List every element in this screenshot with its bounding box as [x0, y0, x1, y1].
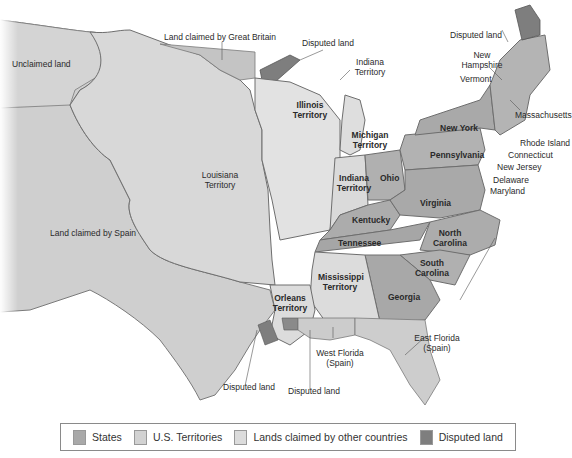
label-indiana-territory: Indiana Territory — [336, 173, 372, 193]
swatch-states-icon — [73, 430, 86, 445]
legend: States U.S. Territories Lands claimed by… — [60, 423, 516, 451]
swatch-disputed-icon — [420, 430, 433, 445]
label-land-claimed-spain: Land claimed by Spain — [50, 228, 136, 238]
swatch-territories-icon — [134, 430, 147, 445]
label-ohio: Ohio — [380, 173, 399, 183]
label-new-hampshire: New Hampshire — [460, 50, 504, 70]
label-disputed-land-ne: Disputed land — [450, 30, 502, 40]
legend-item-disputed: Disputed land — [420, 430, 503, 445]
label-illinois-territory: Illinois Territory — [292, 100, 328, 120]
label-disputed-land-s: Disputed land — [288, 386, 340, 396]
label-delaware: Delaware — [493, 175, 529, 185]
map-area: Unclaimed land Land claimed by Great Bri… — [0, 0, 562, 410]
label-new-jersey: New Jersey — [497, 162, 541, 172]
label-michigan-territory: Michigan Territory — [350, 130, 390, 150]
label-rhode-island: Rhode Island — [520, 138, 570, 148]
swatch-other-countries-icon — [234, 430, 247, 445]
label-kentucky: Kentucky — [352, 215, 390, 225]
label-connecticut: Connecticut — [508, 150, 553, 160]
label-maryland: Maryland — [490, 186, 525, 196]
region-disputed-s — [282, 318, 298, 330]
label-orleans-territory: Orleans Territory — [270, 293, 310, 313]
legend-label: States — [92, 431, 122, 443]
legend-label: Disputed land — [439, 431, 503, 443]
label-disputed-land-north: Disputed land — [302, 38, 354, 48]
legend-item-territories: U.S. Territories — [134, 430, 222, 445]
label-disputed-land-sw: Disputed land — [223, 382, 275, 392]
label-great-britain: Land claimed by Great Britain — [164, 32, 276, 42]
region-disputed-ne — [515, 5, 540, 40]
label-louisiana-territory: Louisiana Territory — [200, 170, 240, 190]
label-west-florida: West Florida (Spain) — [312, 348, 368, 368]
label-mississippi-territory: Mississippi Territory — [318, 272, 362, 292]
region-pennsylvania — [400, 128, 485, 170]
label-pennsylvania: Pennsylvania — [430, 150, 484, 160]
label-tennessee: Tennessee — [338, 238, 381, 248]
region-disputed-north — [260, 55, 300, 82]
label-massachusetts: Massachusetts — [515, 110, 572, 120]
region-virginia — [390, 165, 485, 218]
legend-item-other-countries: Lands claimed by other countries — [234, 430, 407, 445]
label-south-carolina: South Carolina — [412, 258, 452, 278]
label-new-york: New York — [440, 123, 478, 133]
label-vermont: Vermont — [460, 74, 492, 84]
region-west-florida — [298, 318, 355, 340]
legend-item-states: States — [73, 430, 122, 445]
label-indiana-territory-north: Indiana Territory — [352, 57, 388, 77]
label-georgia: Georgia — [388, 292, 420, 302]
label-north-carolina: North Carolina — [430, 228, 470, 248]
label-virginia: Virginia — [420, 198, 451, 208]
label-unclaimed-land: Unclaimed land — [12, 59, 71, 69]
label-east-florida: East Florida (Spain) — [412, 333, 462, 353]
legend-label: Lands claimed by other countries — [253, 431, 407, 443]
legend-label: U.S. Territories — [153, 431, 222, 443]
